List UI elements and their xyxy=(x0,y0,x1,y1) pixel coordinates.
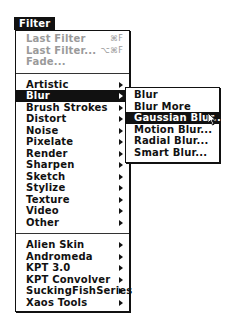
menu-group-plugins: Alien Skin Andromeda KPT 3.0 KPT Convolv… xyxy=(16,239,129,308)
filter-menu: Last Filter ⌘F Last Filter... ⌥⌘F Fade..… xyxy=(15,30,130,312)
submenu-arrow-icon xyxy=(119,208,123,214)
blur-submenu: Blur Blur More Gaussian Blur... Motion B… xyxy=(125,87,220,163)
submenu-arrow-icon xyxy=(119,277,123,283)
submenu-arrow-icon xyxy=(119,82,123,88)
menu-item-label: Fade... xyxy=(26,56,66,67)
submenu-arrow-icon xyxy=(119,116,123,122)
menu-item-fade[interactable]: Fade... xyxy=(16,56,129,68)
menu-item-texture[interactable]: Texture xyxy=(16,194,129,206)
menu-item-label: Smart Blur... xyxy=(134,147,207,158)
menu-item-label: Noise xyxy=(26,125,58,136)
submenu-item-blur[interactable]: Blur xyxy=(126,89,219,101)
menu-item-xaos-tools[interactable]: Xaos Tools xyxy=(16,297,129,309)
menu-separator xyxy=(16,73,129,74)
submenu-arrow-icon xyxy=(119,151,123,157)
menu-item-label: Sketch xyxy=(26,171,65,182)
menu-item-label: Render xyxy=(26,148,68,159)
submenu-arrow-icon xyxy=(119,185,123,191)
menu-item-noise[interactable]: Noise xyxy=(16,125,129,137)
menu-item-label: Alien Skin xyxy=(26,239,84,250)
menu-group-filter-categories: Artistic Blur Brush Strokes Distort Nois… xyxy=(16,79,129,229)
menu-item-distort[interactable]: Distort xyxy=(16,113,129,125)
menu-item-label: Blur xyxy=(134,89,158,100)
menu-item-kpt-3[interactable]: KPT 3.0 xyxy=(16,262,129,274)
submenu-arrow-icon xyxy=(119,105,123,111)
menu-item-label: Video xyxy=(26,205,59,216)
shortcut-label: ⌘F xyxy=(110,33,123,45)
menu-separator xyxy=(16,233,129,234)
submenu-arrow-icon xyxy=(119,128,123,134)
submenu-arrow-icon xyxy=(119,300,123,306)
menu-item-artistic[interactable]: Artistic xyxy=(16,79,129,91)
menu-item-video[interactable]: Video xyxy=(16,205,129,217)
submenu-arrow-icon xyxy=(119,288,123,294)
menu-item-label: Stylize xyxy=(26,182,65,193)
menu-item-label: SuckingFishSeries xyxy=(26,285,132,296)
submenu-item-motion-blur[interactable]: Motion Blur... xyxy=(126,124,219,136)
menu-item-stylize[interactable]: Stylize xyxy=(16,182,129,194)
menu-item-brush-strokes[interactable]: Brush Strokes xyxy=(16,102,129,114)
menu-item-label: Sharpen xyxy=(26,159,74,170)
submenu-arrow-icon xyxy=(119,254,123,260)
menu-item-label: Texture xyxy=(26,194,70,205)
menu-item-label: Last Filter... xyxy=(26,45,96,56)
menu-item-label: Andromeda xyxy=(26,251,93,262)
menu-title-filter[interactable]: Filter xyxy=(14,17,55,30)
menu-item-label: KPT Convolver xyxy=(26,274,110,285)
submenu-arrow-icon xyxy=(119,197,123,203)
menu-item-blur[interactable]: Blur xyxy=(16,90,129,102)
submenu-arrow-icon xyxy=(119,265,123,271)
menu-group-recent: Last Filter ⌘F Last Filter... ⌥⌘F Fade..… xyxy=(16,31,129,68)
submenu-arrow-icon xyxy=(119,174,123,180)
menu-item-label: Blur xyxy=(26,90,50,101)
submenu-arrow-icon xyxy=(119,139,123,145)
submenu-item-smart-blur[interactable]: Smart Blur... xyxy=(126,147,219,159)
menu-item-other[interactable]: Other xyxy=(16,217,129,229)
menu-item-sharpen[interactable]: Sharpen xyxy=(16,159,129,171)
menu-item-suckingfishseries[interactable]: SuckingFishSeries xyxy=(16,285,129,297)
menu-item-label: Xaos Tools xyxy=(26,297,87,308)
submenu-item-radial-blur[interactable]: Radial Blur... xyxy=(126,135,219,147)
submenu-item-blur-more[interactable]: Blur More xyxy=(126,101,219,113)
menu-item-label: Artistic xyxy=(26,79,69,90)
menu-item-andromeda[interactable]: Andromeda xyxy=(16,251,129,263)
menu-item-label: Brush Strokes xyxy=(26,102,108,113)
menu-item-last-filter[interactable]: Last Filter ⌘F xyxy=(16,33,129,45)
submenu-item-gaussian-blur[interactable]: Gaussian Blur... xyxy=(126,112,219,124)
menu-item-kpt-convolver[interactable]: KPT Convolver xyxy=(16,274,129,286)
menu-item-label: Last Filter xyxy=(26,33,86,44)
menu-item-label: Pixelate xyxy=(26,136,73,147)
submenu-arrow-icon xyxy=(119,242,123,248)
menu-item-label: Radial Blur... xyxy=(134,135,209,146)
menu-item-render[interactable]: Render xyxy=(16,148,129,160)
menu-item-label: Motion Blur... xyxy=(134,124,212,135)
menu-item-sketch[interactable]: Sketch xyxy=(16,171,129,183)
menu-item-label: Distort xyxy=(26,113,66,124)
menu-item-label: KPT 3.0 xyxy=(26,262,71,273)
submenu-arrow-icon xyxy=(119,93,123,99)
menu-item-last-filter-dialog[interactable]: Last Filter... ⌥⌘F xyxy=(16,45,129,57)
menu-item-label: Other xyxy=(26,217,59,228)
menu-item-alien-skin[interactable]: Alien Skin xyxy=(16,239,129,251)
submenu-arrow-icon xyxy=(119,220,123,226)
submenu-arrow-icon xyxy=(119,162,123,168)
menu-item-label: Blur More xyxy=(134,101,191,112)
menu-item-pixelate[interactable]: Pixelate xyxy=(16,136,129,148)
shortcut-label: ⌥⌘F xyxy=(101,45,123,57)
